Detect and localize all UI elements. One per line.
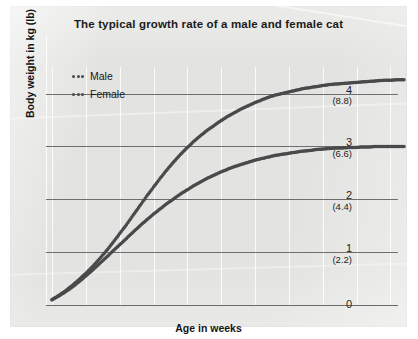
y-axis-label: Body weight in kg (lb): [24, 9, 36, 118]
chart-legend: Male Female: [72, 68, 125, 104]
legend-label: Female: [90, 88, 125, 100]
chart-panel: The typical growth rate of a male and fe…: [10, 6, 407, 327]
x-axis-label: Age in weeks: [10, 322, 407, 334]
chart-title: The typical growth rate of a male and fe…: [10, 18, 407, 30]
legend-marker-dotted-icon: [72, 75, 84, 78]
legend-label: Male: [90, 70, 113, 82]
legend-item-male[interactable]: Male: [72, 68, 125, 84]
series-female: [50, 145, 406, 302]
legend-item-female[interactable]: Female: [72, 86, 125, 102]
plot-area: 05101520253035404550524(8.8)3(6.6)2(4.4)…: [52, 75, 404, 305]
chart-page: The typical growth rate of a male and fe…: [0, 0, 418, 339]
y-axis-line: [46, 35, 47, 305]
legend-marker-dotted-icon: [72, 93, 84, 96]
series-male: [50, 78, 406, 301]
series-layer: [52, 75, 404, 315]
